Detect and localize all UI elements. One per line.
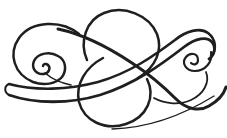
- right-spiral-stroke: [184, 52, 211, 71]
- ribbon-left-fold-stroke: [5, 84, 9, 95]
- top-loop-stroke: [84, 10, 159, 78]
- ornament-canvas: [0, 0, 227, 138]
- ribbon-lower-stroke: [9, 39, 214, 102]
- calligraphic-flourish-icon: [0, 0, 227, 138]
- flourish-strokes: [5, 10, 226, 129]
